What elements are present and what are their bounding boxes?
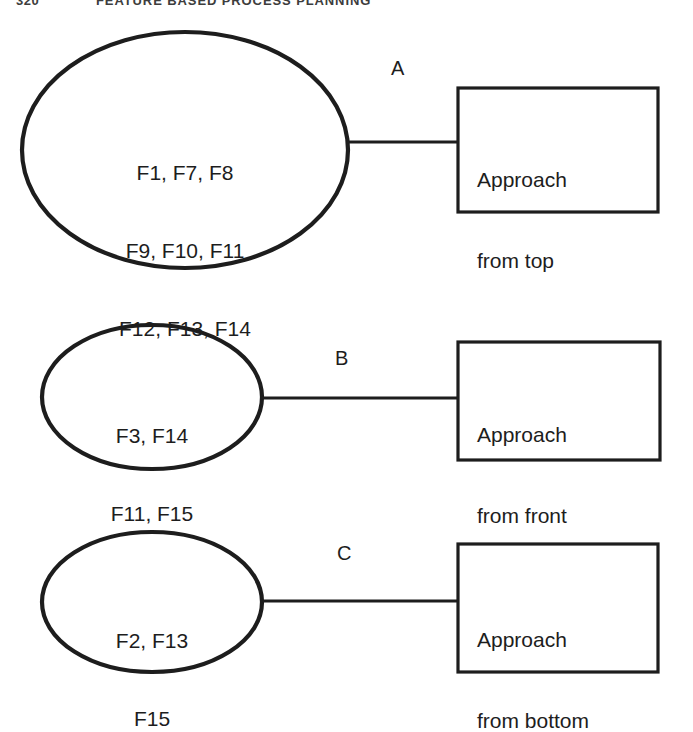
feature-group-ellipse-a (22, 32, 348, 268)
approach-box-b (458, 342, 660, 460)
feature-group-ellipse-c (42, 532, 262, 672)
approach-box-c-line-2: from bottom (477, 707, 657, 732)
group-c (42, 532, 658, 672)
approach-box-a (458, 88, 658, 212)
approach-box-c (458, 544, 658, 672)
feature-group-ellipse-b (42, 325, 262, 469)
group-b (42, 325, 660, 469)
group-a (22, 32, 658, 268)
